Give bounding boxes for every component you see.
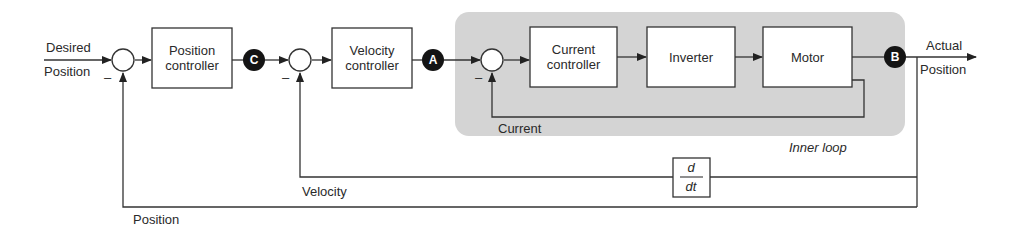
- inverter-label: Inverter: [647, 27, 735, 87]
- velocity-controller-label: Velocity controller: [332, 28, 412, 88]
- derivative-numerator: d: [673, 161, 709, 175]
- input-label-line2: Position: [44, 64, 90, 79]
- velocity-controller-line2: controller: [345, 58, 398, 73]
- summing-junction-current: [481, 49, 503, 71]
- minus-sign-velocity: –: [282, 70, 289, 85]
- current-feedback-label: Current: [498, 121, 541, 136]
- current-controller-label: Current controller: [530, 27, 617, 87]
- position-controller-line2: controller: [165, 58, 218, 73]
- node-b: B: [884, 46, 906, 68]
- motor-label: Motor: [763, 27, 852, 87]
- output-label-line2: Position: [920, 62, 966, 77]
- current-controller-line1: Current: [552, 42, 595, 57]
- velocity-feedback-label: Velocity: [302, 184, 347, 199]
- summing-junction-position: [112, 49, 134, 71]
- position-controller-label: Position controller: [152, 28, 232, 88]
- position-feedback-label: Position: [133, 212, 179, 227]
- minus-sign-current: –: [475, 70, 482, 85]
- derivative-denominator: dt: [673, 180, 709, 194]
- input-label-line1: Desired: [46, 40, 91, 55]
- inner-loop-label: Inner loop: [789, 140, 847, 155]
- current-controller-line2: controller: [547, 57, 600, 72]
- velocity-controller-line1: Velocity: [350, 43, 395, 58]
- minus-sign-position: –: [104, 70, 111, 85]
- node-a: A: [422, 49, 444, 71]
- summing-junction-velocity: [289, 49, 311, 71]
- node-c: C: [243, 49, 265, 71]
- output-label-line1: Actual: [926, 38, 962, 53]
- position-controller-line1: Position: [169, 43, 215, 58]
